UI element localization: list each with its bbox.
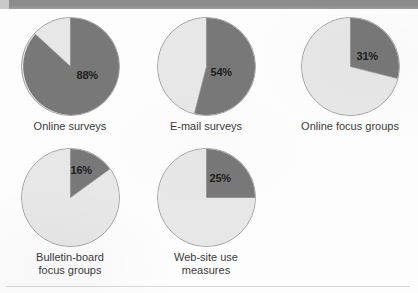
header-band <box>8 0 418 9</box>
chart-caption-line: Online focus groups <box>300 120 400 133</box>
pie-highlight-wedge <box>22 18 119 115</box>
pie-chart-email-surveys: 54% E-mail surveys <box>156 17 256 133</box>
pie-graphic: 25% <box>157 148 256 247</box>
pie-highlight-wedge <box>302 18 399 115</box>
chart-caption-line: Web-site use <box>156 251 256 264</box>
pie-disc <box>21 148 120 247</box>
pie-chart-bulletin-board-focus-groups: 16% Bulletin-board focus groups <box>20 148 120 276</box>
pie-value-label: 54% <box>211 67 232 78</box>
chart-caption-line: E-mail surveys <box>156 120 256 133</box>
pie-chart-online-surveys: 88% Online surveys <box>20 17 120 133</box>
chart-caption: Online surveys <box>20 120 120 133</box>
pie-disc <box>301 17 400 116</box>
pie-disc <box>157 148 256 247</box>
pie-graphic: 88% <box>21 17 120 116</box>
pie-highlight-wedge <box>158 149 255 246</box>
footer-rule <box>6 286 410 287</box>
pie-chart-website-use-measures: 25% Web-site use measures <box>156 148 256 276</box>
pie-graphic: 16% <box>21 148 120 247</box>
pie-disc <box>21 17 120 116</box>
chart-caption: Online focus groups <box>300 120 400 133</box>
pie-graphic: 54% <box>157 17 256 116</box>
chart-caption-line: measures <box>156 264 256 277</box>
pie-highlight-wedge <box>22 149 119 246</box>
pie-value-label: 16% <box>71 165 92 176</box>
pie-value-label: 31% <box>357 51 378 62</box>
chart-caption-line: Bulletin-board <box>20 251 120 264</box>
chart-caption-line: Online surveys <box>20 120 120 133</box>
pie-highlight-wedge <box>158 18 255 115</box>
pie-chart-online-focus-groups: 31% Online focus groups <box>300 17 400 133</box>
header-band-corner <box>0 0 9 9</box>
figure-root: 88% Online surveys 54% E-mail surveys <box>0 0 418 293</box>
pie-value-label: 88% <box>77 70 98 81</box>
pie-graphic: 31% <box>301 17 400 116</box>
pie-value-label: 25% <box>210 173 231 184</box>
chart-caption: Web-site use measures <box>156 251 256 276</box>
pie-disc <box>157 17 256 116</box>
chart-caption-line: focus groups <box>20 264 120 277</box>
chart-caption: Bulletin-board focus groups <box>20 251 120 276</box>
chart-caption: E-mail surveys <box>156 120 256 133</box>
